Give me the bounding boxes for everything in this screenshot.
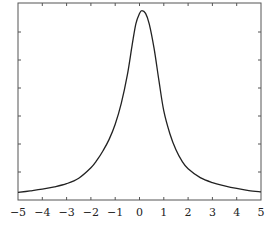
x-tick-label: 1 bbox=[160, 206, 167, 219]
y-axis-ticks bbox=[18, 32, 261, 172]
x-tick-label: −5 bbox=[10, 206, 26, 219]
line-chart: −5−4−3−2−1012345 bbox=[0, 0, 275, 231]
x-tick-label: 3 bbox=[209, 206, 216, 219]
x-tick-label: 4 bbox=[233, 206, 240, 219]
x-tick-label: 5 bbox=[258, 206, 265, 219]
x-axis-tick-labels: −5−4−3−2−1012345 bbox=[10, 206, 265, 219]
x-tick-label: 0 bbox=[136, 206, 143, 219]
x-tick-label: −4 bbox=[34, 206, 50, 219]
x-tick-label: 2 bbox=[185, 206, 192, 219]
data-curve bbox=[18, 11, 261, 193]
x-tick-label: −1 bbox=[107, 206, 123, 219]
x-tick-label: −3 bbox=[58, 206, 74, 219]
plot-frame bbox=[18, 3, 261, 200]
x-axis-ticks bbox=[42, 3, 236, 200]
x-tick-label: −2 bbox=[83, 206, 99, 219]
